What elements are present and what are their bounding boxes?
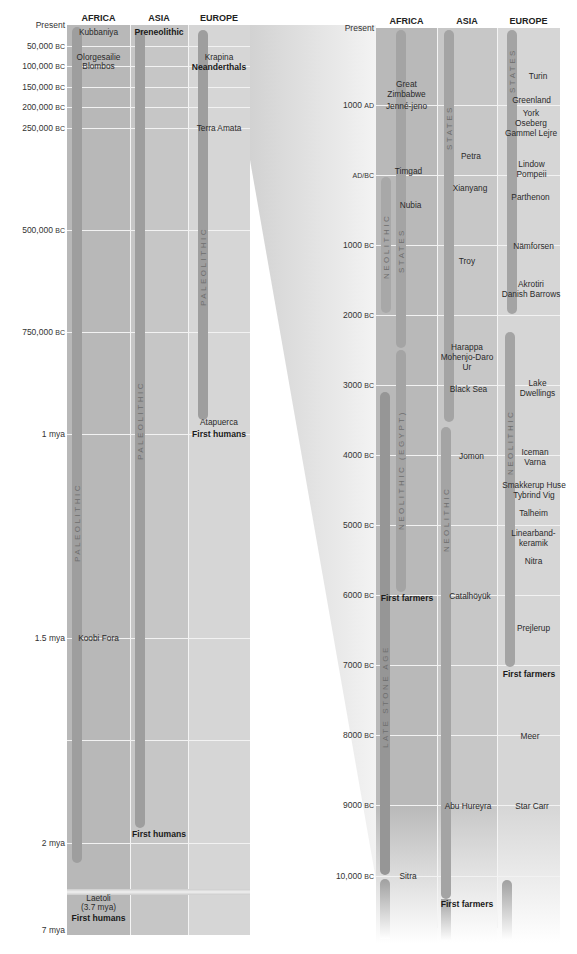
tick-label: 2 mya [42,838,65,848]
divider [130,25,131,935]
site-label: Akrotiri Danish Barrows [495,279,567,299]
site-label: Nubia [380,200,441,210]
site-label: Troy [437,256,497,266]
site-label: Terra Amata [188,123,250,133]
site-label: Star Carr [502,801,562,811]
site-label: (3.7 mya) [67,902,130,912]
site-label: Nitra [506,556,561,566]
gridline [67,332,250,333]
right-header-asia: ASIA [437,16,497,26]
tick-label: 200,000 BC [22,102,65,112]
period-label: NEOLITHIC (EGYPT) [397,410,406,530]
site-label: Iceman Varna [510,447,560,467]
period-bar-africa-paleolithic [72,27,82,863]
tick-label: 1.5 mya [35,633,65,643]
tick-label: 50,000 BC [27,41,65,51]
site-label: Sitra [388,871,428,881]
period-label: NEOLITHIC [442,487,451,552]
site-label: Parthenon [499,192,562,202]
gridline [67,87,250,88]
period-bar-africa-states [396,30,406,348]
period-label: PALEOLITHIC [73,483,82,562]
site-label: Atapuerca [188,417,250,427]
tick-label: Present [36,20,65,30]
site-label: Turin [513,71,563,81]
tick-label: 6000 BC [343,590,374,600]
site-label: Talheim [506,508,561,518]
site-label: Xianyang [440,183,500,193]
site-label: First farmers [434,899,500,909]
tick-label: 150,000 BC [22,82,65,92]
gridline [67,107,250,108]
site-label: Catalhöyük [440,591,500,601]
tick-label: 8000 BC [343,730,374,740]
period-label: STATES [397,228,406,273]
site-label: Jomon [444,451,499,461]
tick-label: AD/BC [353,170,374,180]
site-label: Preneolithic [130,27,188,37]
site-label: First humans [65,913,132,923]
site-label: Neanderthals [188,62,250,72]
period-label: PALEOLITHIC [199,227,208,306]
site-label: Nämforsen [502,241,565,251]
gridline [67,740,250,741]
site-label: First humans [128,829,190,839]
period-bar-europe-paleolithic [198,30,208,420]
period-label: STATES [445,105,454,150]
tick-label: 3000 BC [343,380,374,390]
tick-label: 5000 BC [343,520,374,530]
site-label: Harappa Mohenjo-Daro Ur [433,342,501,372]
tick-label: 7 mya [42,925,65,935]
period-bar-africa-late-stone-age [380,392,390,875]
site-label: Meer [505,731,555,741]
site-label: Blombos [67,61,130,71]
site-label: First farmers [496,669,562,679]
divider [497,28,498,928]
gridline [67,843,250,844]
gridline [67,46,250,47]
period-bar-europe-continuation [502,880,512,940]
period-label: LATE STONE AGE [381,645,390,748]
tick-label: 9000 BC [343,800,374,810]
site-label: Great Zimbabwe [376,79,437,99]
gridline [376,665,560,666]
tick-label: 1000 AD [343,100,374,110]
left-header-europe: EUROPE [188,13,250,23]
site-label: Lindow Pompeii [500,159,563,179]
gridline [67,230,250,231]
period-label: NEOLITHIC [382,214,391,279]
site-label: Smakkerup Huse Tybrind Vig [494,480,574,500]
tick-label: 250,000 BC [22,123,65,133]
right-header-europe: EUROPE [497,16,560,26]
tick-label: 500,000 BC [22,225,65,235]
tick-label: 10,000 BC [336,871,374,881]
tick-label: 4000 BC [343,450,374,460]
site-label: Black Sea [437,384,500,394]
tick-label: Present [345,23,374,33]
site-label: Jenné-jeno [376,101,437,111]
right-header-africa: AFRICA [376,16,437,26]
site-label: Krapina [188,52,250,62]
site-label: Lake Dwellings [510,378,565,398]
tick-label: 1000 BC [343,240,374,250]
divider [188,25,189,935]
tick-label: 1 mya [42,429,65,439]
site-label: Prejlerup [502,623,565,633]
period-label: PALEOLITHIC [136,381,145,460]
site-label: York Oseberg Gammel Lejre [496,108,566,138]
site-label: First humans [188,429,250,439]
site-label: Greenland [500,95,563,105]
period-bar-africa-continuation [380,879,390,939]
site-label: Linearband- keramik [502,528,565,548]
site-label: Petra [445,151,497,161]
tick-label: 2000 BC [343,310,374,320]
divider [437,28,438,928]
site-label: Kubbaniya [67,27,130,37]
tick-label: 100,000 BC [22,61,65,71]
left-header-africa: AFRICA [67,13,130,23]
site-label: First farmers [374,593,440,603]
left-header-asia: ASIA [130,13,188,23]
site-label: Abu Hureyra [437,801,499,811]
tick-label: 750,000 BC [22,327,65,337]
site-label: Koobi Fora [67,633,130,643]
